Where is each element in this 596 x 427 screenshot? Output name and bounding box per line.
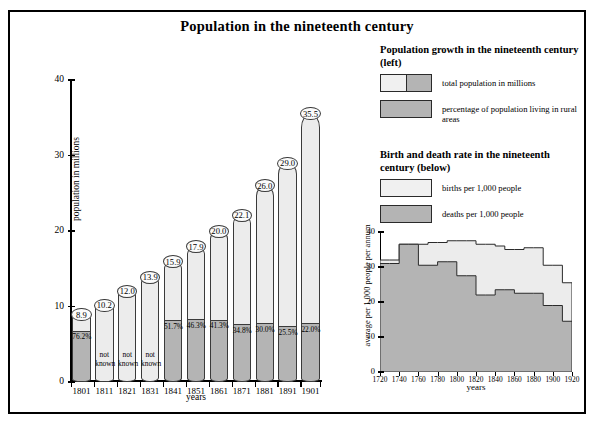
page-title: Population in the nineteenth century	[10, 18, 584, 35]
bar-chart-bar[interactable]: 51.7%15.9	[164, 262, 182, 382]
bar-total-value-label: 35.5	[300, 107, 320, 120]
bar-chart-bar[interactable]: 22.0%35.5	[301, 114, 319, 382]
bar-chart-y-tick-label: 20	[38, 225, 64, 235]
bar-chart-bar[interactable]: 30.0%26.0	[256, 186, 274, 382]
birth-death-rate-chart: average per 1,000 people per annum 01020…	[346, 226, 584, 412]
bar-rural-percentage-label: 25.5%	[278, 329, 296, 337]
bar-total-value-label: 10.2	[94, 299, 114, 312]
step-chart-y-tick-label: 10	[353, 332, 375, 341]
step-chart-area-svg	[380, 232, 572, 372]
bar-chart-bar[interactable]: 46.3%17.9	[187, 247, 205, 382]
bar-chart-bar[interactable]: 34.8%22.1	[233, 215, 251, 382]
legend-label-total-population: total population in millions	[442, 78, 535, 88]
bar-rural-percentage-label: 76.2%	[72, 333, 90, 341]
step-chart-y-tick-label: 20	[353, 297, 375, 306]
bar-total-value-label: 20.0	[209, 225, 229, 238]
bar-total-value-label: 8.9	[71, 308, 91, 321]
step-chart-plot-area: 010203040 172017401760178018001820184018…	[380, 232, 572, 372]
legend-swatch-total-population	[380, 74, 432, 92]
population-bar-chart: population in millions 010203040 76.2%8.…	[22, 70, 342, 415]
step-chart-y-tick	[378, 301, 384, 302]
bar-total-segment	[95, 305, 113, 382]
bar-chart-bar[interactable]: notknown13.9	[141, 277, 159, 382]
step-chart-y-tick-label: 40	[353, 227, 375, 236]
bar-chart-y-tick	[68, 79, 75, 81]
bar-chart-x-axis-label: years	[70, 392, 322, 402]
figure-frame: Population in the nineteenth century pop…	[8, 10, 586, 414]
legend-swatch-rural-percentage	[380, 100, 432, 118]
bar-rural-percentage-label: 30.0%	[256, 326, 274, 334]
step-chart-y-tick	[378, 371, 384, 372]
step-chart-x-axis-label: years	[380, 382, 572, 392]
legend-birth-death-heading: Birth and death rate in the nineteenth c…	[380, 149, 580, 174]
bar-total-value-label: 29.0	[277, 157, 297, 170]
bar-chart-y-tick-label: 40	[38, 74, 64, 84]
bar-total-value-label: 13.9	[140, 271, 160, 284]
bar-chart-y-tick-label: 30	[38, 150, 64, 160]
step-chart-y-tick	[378, 336, 384, 337]
bar-rural-percentage-label: notknown	[95, 351, 113, 368]
legend-population-heading: Population growth in the nineteenth cent…	[380, 44, 580, 69]
legend-label-rural-percentage: percentage of population living in rural…	[442, 104, 584, 124]
bar-chart-y-tick	[68, 306, 75, 308]
bar-chart-bar[interactable]: 76.2%8.9	[72, 315, 90, 382]
bar-chart-bar[interactable]: notknown10.2	[95, 305, 113, 382]
bar-total-segment	[118, 291, 136, 382]
step-chart-y-axis-label: average per 1,000 people per annum	[363, 221, 372, 351]
bar-chart-bar[interactable]: 25.5%29.0	[278, 163, 296, 382]
legend-label-births: births per 1,000 people	[442, 183, 521, 193]
bar-rural-percentage-label: 41.3%	[210, 322, 228, 330]
bar-total-value-label: 12.0	[117, 285, 137, 298]
bar-rural-percentage-label: 22.0%	[301, 326, 319, 334]
bar-chart-plot-area: 010203040 76.2%8.9notknown10.2notknown12…	[70, 80, 322, 382]
bar-chart-x-tick	[320, 382, 321, 387]
bar-chart-y-tick	[68, 230, 75, 232]
bar-total-value-label: 17.9	[186, 240, 206, 253]
legend-swatch-deaths	[380, 205, 432, 223]
bar-chart-y-tick-label: 10	[38, 301, 64, 311]
bar-total-value-label: 22.1	[232, 209, 252, 222]
step-chart-y-tick	[378, 266, 384, 267]
bar-rural-percentage-label: 34.8%	[233, 327, 251, 335]
bar-rural-percentage-label: notknown	[118, 351, 136, 368]
bar-total-value-label: 26.0	[255, 179, 275, 192]
bar-chart-y-tick	[68, 155, 75, 157]
bar-rural-percentage-label: 51.7%	[164, 323, 182, 331]
bar-total-value-label: 15.9	[163, 255, 183, 268]
legend-label-deaths: deaths per 1,000 people	[442, 209, 524, 219]
bar-chart-y-tick-label: 0	[38, 376, 64, 386]
step-chart-y-tick-label: 30	[353, 262, 375, 271]
bar-chart-bar[interactable]: notknown12.0	[118, 291, 136, 382]
legend-swatch-births	[380, 179, 432, 197]
step-chart-y-tick	[378, 231, 384, 232]
bar-rural-percentage-label: 46.3%	[187, 322, 205, 330]
bar-chart-bar[interactable]: 41.3%20.0	[210, 231, 228, 382]
bar-rural-percentage-label: notknown	[141, 351, 159, 368]
